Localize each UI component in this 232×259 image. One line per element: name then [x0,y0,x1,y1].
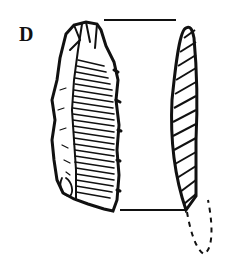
cross-section-profile [172,27,212,254]
artifact-drawing [0,0,232,259]
stone-tool-face-view [52,22,121,211]
